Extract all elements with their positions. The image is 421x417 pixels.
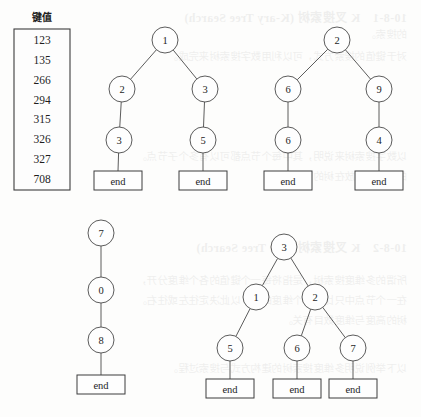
end-box-label: end [222,384,238,395]
tree-node-label: 6 [285,84,290,95]
tree-1: endend12335 [94,27,227,190]
end-box-label: end [280,176,296,187]
key-list-value: 123 [33,34,51,46]
tree-node-label: 2 [334,35,339,46]
figure-page: 10-8-1 K 叉搜索树 (K-ary Tree Search) 的搜索。 对… [0,0,421,417]
tree-node-label: 8 [98,335,103,346]
tree-node-label: 6 [285,135,290,146]
end-box-label: end [371,176,387,187]
tree-3: end708 [77,220,125,394]
key-list-value: 327 [33,153,51,165]
tree-edge [204,102,205,127]
end-box-label: end [93,380,109,391]
tree-4: endendend312567 [206,234,377,398]
tree-node-label: 3 [202,84,207,95]
key-list: 键值123135266294315326327708 [14,11,70,190]
key-list-value: 315 [33,113,51,125]
key-list-value: 266 [33,74,51,86]
tree-edge [323,307,345,337]
tree-node-label: 3 [281,242,286,253]
tree-node-label: 0 [98,285,103,296]
terminal-edge [118,153,119,171]
key-list-value: 294 [33,94,51,106]
tree-node-label: 2 [119,84,124,95]
key-list-title: 键值 [31,11,52,23]
tree-2: endend26964 [264,27,403,190]
end-box-label: end [345,384,361,395]
tree-node-label: 7 [350,343,355,354]
tree-node-label: 4 [376,135,382,146]
tree-node-label: 6 [294,343,299,354]
tree-edge [301,309,310,335]
tree-edge [297,49,328,80]
tree-node-label: 9 [376,84,381,95]
tree-edge [291,258,308,286]
key-list-value: 326 [33,133,51,145]
digital-search-tree-figure: 键值123135266294315326327708endend12335end… [0,0,421,417]
tree-edge [236,309,250,337]
tree-edge [120,102,121,127]
tree-node-label: 5 [200,135,205,146]
tree-node-label: 2 [312,292,317,303]
tree-edge [131,50,157,79]
tree-node-label: 1 [253,292,258,303]
tree-edge [262,258,277,285]
tree-node-label: 3 [116,135,121,146]
tree-node-label: 1 [162,35,167,46]
key-list-value: 135 [33,54,51,66]
key-list-value: 708 [33,173,51,185]
tree-node-label: 7 [98,228,103,239]
tree-node-label: 5 [227,343,232,354]
tree-edge [345,50,370,79]
end-box-label: end [289,384,305,395]
end-box-label: end [195,176,211,187]
end-box-label: end [110,176,126,187]
tree-edge [173,50,197,79]
